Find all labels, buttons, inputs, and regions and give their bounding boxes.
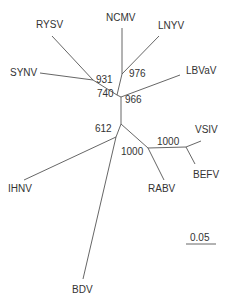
taxon-label-synv: SYNV [10, 68, 37, 78]
taxon-label-rysv: RYSV [36, 20, 63, 30]
taxon-label-befv: BEFV [193, 170, 219, 180]
branch-to-1000 [121, 124, 148, 148]
bootstrap-740: 740 [97, 89, 114, 99]
bootstrap-1000-vsiv-befv: 1000 [157, 137, 179, 147]
bootstrap-612: 612 [95, 124, 112, 134]
bootstrap-931: 931 [96, 75, 113, 85]
branch-740-966 [117, 95, 121, 97]
taxon-label-rabv: RABV [148, 184, 175, 194]
bootstrap-966: 966 [125, 95, 142, 105]
taxon-label-vsiv: VSIV [195, 125, 218, 135]
taxon-label-lbvav: LBVaV [186, 66, 216, 76]
branch-to-612 [116, 124, 121, 137]
branch-rysv [52, 36, 93, 80]
branch-976-740 [117, 74, 122, 95]
scale-bar-label: 0.05 [190, 233, 209, 243]
branch-synv [40, 73, 93, 80]
branch-vsiv [186, 141, 201, 147]
branch-rabv [148, 148, 164, 180]
taxon-label-ihnv: IHNV [8, 184, 32, 194]
branch-ihnv [24, 137, 116, 180]
taxon-label-ncmv: NCMV [106, 13, 135, 23]
bootstrap-1000-rabv: 1000 [121, 147, 143, 157]
bootstrap-976: 976 [129, 69, 146, 79]
branch-bdv [83, 137, 116, 279]
branch-befv [186, 147, 195, 164]
phylogenetic-tree [0, 0, 235, 301]
taxon-label-bdv: BDV [72, 285, 93, 295]
taxon-label-lnyv: LNYV [158, 21, 184, 31]
branch-to-vsiv-befv [148, 147, 186, 148]
